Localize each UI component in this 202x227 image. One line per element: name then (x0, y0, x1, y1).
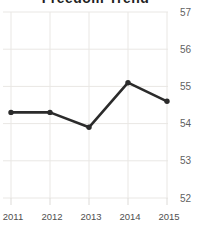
y-axis-label: 53 (180, 155, 192, 166)
x-axis-label: 2011 (3, 211, 23, 222)
y-axis-label: 52 (180, 193, 192, 204)
y-axis-label: 55 (180, 81, 192, 92)
freedom-trend-line-chart: 57565554535220112012201320142015 (0, 0, 202, 227)
x-axis-label: 2014 (119, 211, 140, 222)
x-axis-label: 2012 (41, 211, 62, 222)
x-axis-label: 2013 (80, 211, 101, 222)
data-point (47, 110, 52, 115)
data-point (8, 110, 13, 115)
x-axis-label: 2015 (158, 211, 179, 222)
chart-card: Freedom Trend 57565554535220112012201320… (0, 0, 202, 227)
y-axis-label: 57 (180, 7, 192, 18)
y-axis-label: 56 (180, 44, 192, 55)
data-point (125, 80, 130, 85)
data-point (164, 99, 169, 104)
data-point (86, 125, 91, 130)
y-axis-label: 54 (180, 118, 192, 129)
